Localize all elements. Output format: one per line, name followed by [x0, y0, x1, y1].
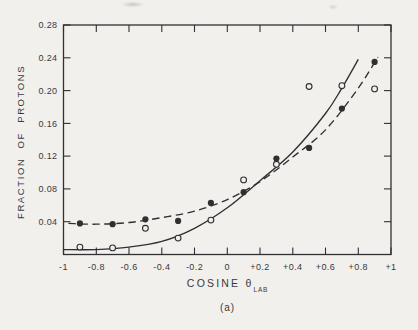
y-tick-label: 0.08 [38, 184, 57, 194]
data-point-open [110, 245, 116, 251]
data-point-open [208, 217, 214, 223]
dashed-curve [68, 57, 378, 224]
y-tick-label: 0.24 [38, 53, 57, 63]
data-point-open [339, 83, 345, 89]
data-point-filled [372, 59, 378, 65]
data-point-open [143, 225, 149, 231]
data-point-open [306, 84, 312, 90]
data-point-filled [306, 145, 312, 151]
data-point-filled [339, 106, 345, 112]
x-tick-label: 0 [225, 262, 230, 272]
y-tick-label: 0.28 [38, 20, 57, 30]
x-axis-label-text: COSINE θ [187, 277, 254, 289]
data-point-open [241, 177, 247, 183]
data-point-open [77, 244, 83, 250]
plot-frame [64, 25, 392, 255]
x-tick-label: -0.6 [120, 262, 137, 272]
data-point-open [175, 235, 181, 241]
x-axis-label: COSINE θLAB [64, 277, 391, 291]
x-axis-label-subscript: LAB [253, 286, 268, 293]
data-point-filled [241, 189, 247, 195]
data-point-filled [273, 156, 279, 162]
x-tick-label: +0.2 [250, 262, 269, 272]
x-tick-label: -0.2 [186, 262, 203, 272]
x-tick-label: -0.8 [88, 262, 105, 272]
y-tick-label: 0.16 [38, 119, 57, 129]
data-point-filled [175, 218, 181, 224]
y-axis-label: FRACTION OF PROTONS [11, 28, 29, 256]
data-point-filled [77, 220, 83, 226]
x-tick-label: +0.6 [316, 262, 335, 272]
x-tick-label: +0.8 [349, 262, 368, 272]
data-point-open [372, 86, 378, 92]
y-tick-label: 0.12 [38, 151, 57, 161]
data-point-filled [110, 221, 116, 227]
figure-caption: (a) [64, 302, 391, 313]
data-point-filled [142, 216, 148, 222]
data-point-open [274, 161, 280, 167]
x-tick-label: -1 [59, 262, 68, 272]
y-tick-label: 0.20 [38, 86, 57, 96]
x-tick-label: +1 [385, 262, 396, 272]
x-tick-label: +0.4 [283, 262, 302, 272]
y-tick-label: 0.04 [38, 217, 57, 227]
data-point-filled [208, 200, 214, 206]
figure-page: -1-0.8-0.6-0.4-0.20+0.2+0.4+0.6+0.8+10.0… [0, 0, 418, 330]
x-tick-label: -0.4 [153, 262, 170, 272]
